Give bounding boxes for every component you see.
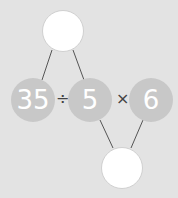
bottom-answer-bubble[interactable]: [101, 147, 143, 189]
operand-5: 5: [68, 78, 112, 122]
top-answer-bubble[interactable]: [42, 10, 84, 52]
operand-6: 6: [129, 78, 173, 122]
multiply-operator: ×: [116, 89, 129, 108]
operand-35: 35: [11, 78, 55, 122]
